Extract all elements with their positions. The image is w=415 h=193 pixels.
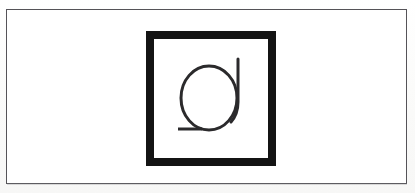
glyph-bowl <box>181 66 237 130</box>
thick-square-frame <box>146 31 276 166</box>
scan-canvas <box>0 0 415 193</box>
rotated-letter-a-icon <box>154 39 268 158</box>
plate-border <box>6 9 407 184</box>
frame-interior <box>154 39 268 158</box>
